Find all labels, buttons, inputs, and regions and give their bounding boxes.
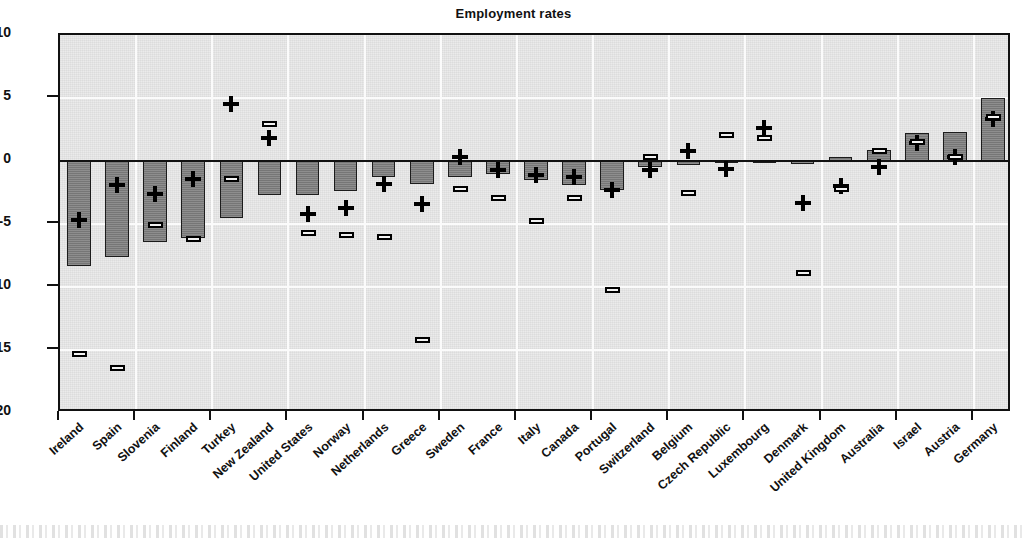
dash-marker (377, 234, 392, 240)
x-axis-tick-mark (362, 411, 364, 420)
dash-marker (605, 287, 620, 293)
gridline-horizontal (60, 286, 1008, 288)
dash-marker (529, 218, 544, 224)
dash-marker (339, 232, 354, 238)
y-axis-tick-label-text: 0 (3, 150, 11, 166)
dash-marker (872, 148, 887, 154)
plot-area (58, 33, 1010, 411)
dash-marker (72, 351, 87, 357)
gridline-vertical (744, 35, 746, 409)
chart-title: Employment rates (0, 6, 1027, 21)
bar (258, 161, 282, 195)
x-axis-tick-mark (514, 411, 516, 420)
plus-marker (528, 167, 544, 183)
y-axis-tick-mark (47, 284, 58, 286)
plus-marker (185, 171, 201, 187)
dash-marker (719, 132, 734, 138)
x-axis-tick-mark (895, 411, 897, 420)
plus-marker (261, 130, 277, 146)
dash-marker (948, 154, 963, 160)
plus-marker (604, 182, 620, 198)
dash-marker (224, 176, 239, 182)
bar (334, 161, 358, 191)
dash-marker (681, 190, 696, 196)
gridline-vertical (516, 35, 518, 409)
x-axis-tick-mark (285, 411, 287, 420)
dash-marker (301, 230, 316, 236)
y-axis-tick-label-text: -20 (0, 402, 11, 418)
y-axis-tick-mark (47, 347, 58, 349)
dash-marker (491, 195, 506, 201)
plus-marker (756, 120, 772, 136)
scan-artifact (0, 525, 1027, 538)
plus-marker (109, 177, 125, 193)
employment-rates-chart: Employment rates 1050-5-10-15-20 Ireland… (0, 0, 1027, 540)
plus-marker (718, 161, 734, 177)
plus-marker (71, 212, 87, 228)
x-axis-tick-mark (666, 411, 668, 420)
dash-marker (643, 154, 658, 160)
plus-marker (376, 176, 392, 192)
plus-marker (490, 162, 506, 178)
plus-marker (452, 149, 468, 165)
dash-marker (757, 135, 772, 141)
dash-marker (110, 365, 125, 371)
dash-marker (148, 222, 163, 228)
x-axis-tick-mark (590, 411, 592, 420)
y-axis-tick-label-text: 10 (0, 24, 11, 40)
bar (105, 161, 129, 257)
dash-marker (796, 270, 811, 276)
gridline-vertical (592, 35, 594, 409)
x-axis-tick-mark (133, 411, 135, 420)
plus-marker (871, 159, 887, 175)
dash-marker (453, 186, 468, 192)
plus-marker (147, 186, 163, 202)
zero-line (60, 160, 1008, 162)
x-axis-tick-mark (57, 411, 59, 420)
dash-marker (415, 337, 430, 343)
bar (220, 161, 244, 218)
dash-marker (186, 236, 201, 242)
gridline-vertical (135, 35, 137, 409)
y-axis-tick-label-text: 5 (3, 87, 11, 103)
y-axis-tick-mark (47, 221, 58, 223)
dash-marker (986, 114, 1001, 120)
bar (410, 161, 434, 184)
gridline-vertical (364, 35, 366, 409)
gridline-horizontal (60, 97, 1008, 99)
dash-marker (262, 121, 277, 127)
x-axis-tick-mark (819, 411, 821, 420)
dash-marker (910, 139, 925, 145)
gridline-vertical (211, 35, 213, 409)
x-axis-tick-mark (742, 411, 744, 420)
bar (296, 161, 320, 195)
plus-marker (642, 162, 658, 178)
y-axis-tick-label-text: -15 (0, 339, 11, 355)
gridline-vertical (668, 35, 670, 409)
dash-marker (834, 186, 849, 192)
dash-marker (567, 195, 582, 201)
bar (981, 98, 1005, 161)
gridline-vertical (440, 35, 442, 409)
plus-marker (338, 200, 354, 216)
gridline-vertical (287, 35, 289, 409)
y-axis-tick-label-text: -10 (0, 276, 11, 292)
x-axis-tick-mark (438, 411, 440, 420)
gridline-vertical (897, 35, 899, 409)
gridline-vertical (821, 35, 823, 409)
x-axis-tick-mark (971, 411, 973, 420)
plus-marker (223, 96, 239, 112)
gridline-vertical (973, 35, 975, 409)
y-axis-tick-mark (47, 95, 58, 97)
plus-marker (680, 143, 696, 159)
plus-marker (795, 195, 811, 211)
y-axis-tick-label-text: -5 (0, 213, 11, 229)
plus-marker (414, 196, 430, 212)
x-axis-tick-mark (209, 411, 211, 420)
plus-marker (300, 206, 316, 222)
plus-marker (566, 169, 582, 185)
gridline-horizontal (60, 349, 1008, 351)
